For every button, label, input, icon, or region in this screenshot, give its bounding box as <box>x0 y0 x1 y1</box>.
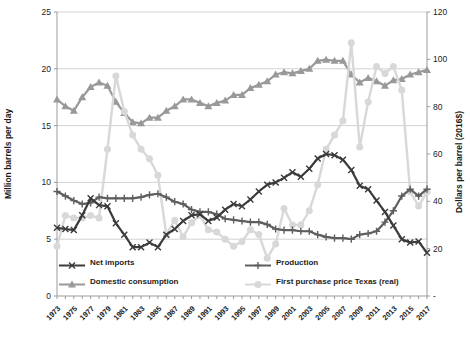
svg-text:1991: 1991 <box>196 304 214 322</box>
svg-text:1977: 1977 <box>78 304 96 322</box>
svg-text:2009: 2009 <box>347 304 365 322</box>
svg-text:2005: 2005 <box>313 304 331 322</box>
svg-text:2007: 2007 <box>330 304 348 322</box>
legend-item-net-imports: Net imports <box>59 257 245 268</box>
svg-text:25: 25 <box>42 7 52 17</box>
svg-text:-: - <box>433 291 436 301</box>
svg-text:1995: 1995 <box>229 304 247 322</box>
series-first-purchase-price-texas-real- <box>54 39 431 261</box>
svg-text:20: 20 <box>433 244 443 254</box>
left-axis-title: Million barrels per day <box>3 109 13 199</box>
svg-text:60: 60 <box>433 149 443 159</box>
legend-item-production: Production <box>245 257 399 268</box>
domestic-consumption-line-marker-icon <box>59 276 85 287</box>
svg-text:1999: 1999 <box>263 304 281 322</box>
right-axis-title: Dollars per barrel (2016$) <box>454 111 464 213</box>
chart-legend: Net imports Production Domestic consumpt… <box>59 257 399 287</box>
svg-text:80: 80 <box>433 102 443 112</box>
svg-text:15: 15 <box>42 121 52 131</box>
svg-text:1997: 1997 <box>246 304 264 322</box>
svg-text:5: 5 <box>46 234 51 244</box>
svg-text:1987: 1987 <box>162 304 180 322</box>
net-imports-line-marker-icon <box>59 257 85 268</box>
svg-text:40: 40 <box>433 196 443 206</box>
svg-text:2003: 2003 <box>297 304 315 322</box>
first-purchase-price-line-marker-icon <box>245 276 271 287</box>
svg-text:1993: 1993 <box>212 304 230 322</box>
svg-text:1979: 1979 <box>95 304 113 322</box>
svg-text:1973: 1973 <box>44 304 62 322</box>
legend-label-domestic-consumption: Domestic consumption <box>90 277 178 286</box>
legend-item-first-purchase-price: First purchase price Texas (real) <box>245 276 399 287</box>
legend-label-production: Production <box>276 258 318 267</box>
svg-text:1985: 1985 <box>145 304 163 322</box>
svg-text:2011: 2011 <box>364 304 382 322</box>
svg-text:1975: 1975 <box>61 304 79 322</box>
svg-text:0: 0 <box>46 291 51 301</box>
x-axis-labels: 1973197519771979198119831985198719891991… <box>44 296 432 322</box>
svg-text:10: 10 <box>42 177 52 187</box>
svg-text:2015: 2015 <box>397 304 415 322</box>
svg-text:2013: 2013 <box>381 304 399 322</box>
svg-text:1981: 1981 <box>112 304 130 322</box>
oil-chart: 0510152025-20406080100120197319751977197… <box>0 0 470 337</box>
series-production <box>53 186 430 243</box>
svg-text:2017: 2017 <box>414 304 432 322</box>
svg-text:120: 120 <box>433 7 447 17</box>
production-line-marker-icon <box>245 257 271 268</box>
legend-label-net-imports: Net imports <box>90 258 134 267</box>
svg-text:1983: 1983 <box>128 304 146 322</box>
legend-label-first-purchase-price: First purchase price Texas (real) <box>276 277 399 286</box>
svg-text:1989: 1989 <box>179 304 197 322</box>
svg-text:2001: 2001 <box>280 304 298 322</box>
svg-text:20: 20 <box>42 64 52 74</box>
svg-text:100: 100 <box>433 54 447 64</box>
legend-item-domestic-consumption: Domestic consumption <box>59 276 245 287</box>
